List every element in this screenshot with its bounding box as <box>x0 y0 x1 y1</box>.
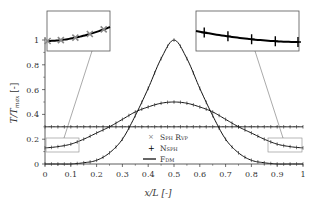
legend-label-sph-rvp: Sph Rvp <box>160 133 189 142</box>
svg-text:T/Tmax [-]: T/Tmax [-] <box>9 83 20 124</box>
y-tick-label: 0.2 <box>26 135 39 144</box>
x-tick-label: 0.9 <box>271 170 284 179</box>
y-tick-label: 0.8 <box>26 61 39 70</box>
x-tick-label: 1 <box>300 170 305 179</box>
zoom-region-right <box>268 138 302 152</box>
legend-label-nsph: Nsph <box>160 144 178 153</box>
legend: × Sph Rvp + Nsph Fdm <box>143 133 189 164</box>
x-tick-label: 0.1 <box>64 170 77 179</box>
line-chart: 00.10.20.30.40.50.60.70.80.9100.20.40.60… <box>0 0 313 204</box>
y-tick-label: 1 <box>34 36 39 45</box>
y-tick-label: 0 <box>34 160 39 169</box>
zoom-region-left <box>46 138 79 152</box>
x-tick-label: 0.2 <box>90 170 103 179</box>
x-tick-label: 0.4 <box>142 170 155 179</box>
y-tick-label: 0.4 <box>26 110 39 119</box>
inset-panels <box>45 11 302 152</box>
x-axis-label: x/L [-] <box>144 188 171 198</box>
legend-marker-nsph: + <box>148 144 155 153</box>
x-tick-label: 0.3 <box>116 170 129 179</box>
y-tick-label: 0.6 <box>26 86 39 95</box>
x-tick-label: 0 <box>42 170 47 179</box>
legend-label-fdm: Fdm <box>160 155 174 164</box>
legend-marker-sph-rvp: × <box>148 133 154 141</box>
x-tick-label: 0.7 <box>219 170 232 179</box>
x-tick-label: 0.5 <box>168 170 181 179</box>
x-tick-label: 0.6 <box>193 170 206 179</box>
y-axis-label: T/Tmax [-] <box>9 83 20 124</box>
x-tick-label: 0.8 <box>245 170 258 179</box>
inset-right <box>196 11 299 51</box>
